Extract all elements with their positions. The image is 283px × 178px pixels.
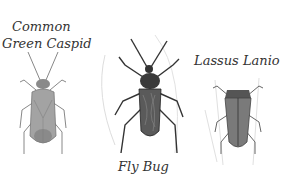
fly-bug-illustration [95,35,195,155]
clipped-top-title: ———————— ———— [78,0,208,3]
caspid-label-line1: Common [12,19,71,34]
fly-bug-label: Fly Bug [118,159,169,174]
common-green-caspid-illustration [10,50,80,160]
lassus-lanio-label: Lassus Lanio [194,53,280,68]
caspid-label-line2: Green Caspid [2,36,92,51]
lassus-lanio-illustration [195,70,283,165]
